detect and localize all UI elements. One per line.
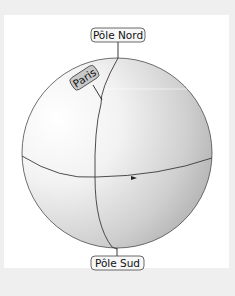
south-pole-callout: Pôle Sud: [91, 248, 144, 270]
south-pole-label: Pôle Sud: [95, 257, 140, 269]
globe-sphere: [22, 58, 212, 248]
north-pole-callout: Pôle Nord: [91, 28, 145, 58]
north-pole-label: Pôle Nord: [93, 29, 143, 41]
page: Pôle Nord Pôle Sud Paris: [0, 0, 235, 296]
globe-diagram: Pôle Nord Pôle Sud Paris: [0, 0, 235, 296]
